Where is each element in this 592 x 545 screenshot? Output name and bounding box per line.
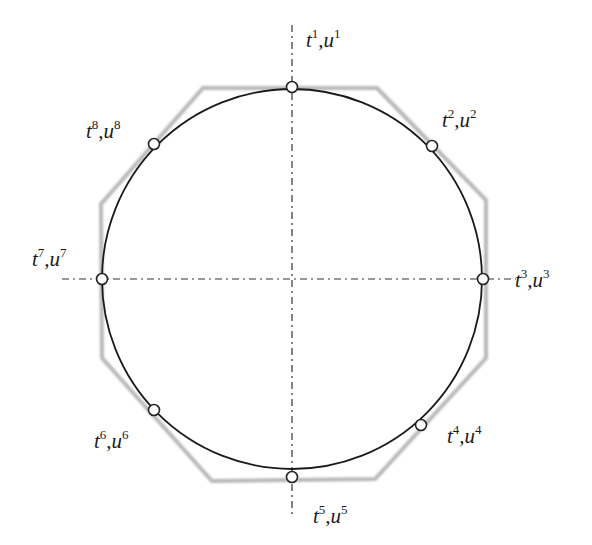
- point-label-8: t8,u8: [86, 117, 121, 143]
- point-label-3: t3,u3: [515, 266, 550, 292]
- point-label-4: t4,u4: [447, 422, 482, 448]
- sample-point-6: [149, 405, 160, 416]
- point-label-6: t6,u6: [94, 427, 129, 453]
- sample-point-5: [287, 472, 298, 483]
- point-labels: t1,u1t2,u2t3,u3t4,u4t5,u5t6,u6t7,u7t8,u8: [32, 26, 550, 528]
- point-label-5: t5,u5: [313, 502, 348, 528]
- circle-octagon-diagram: t1,u1t2,u2t3,u3t4,u4t5,u5t6,u6t7,u7t8,u8: [0, 0, 592, 545]
- sample-point-8: [149, 139, 160, 150]
- sample-point-2: [427, 141, 438, 152]
- sample-point-1: [287, 82, 298, 93]
- point-label-2: t2,u2: [442, 106, 477, 132]
- sample-point-3: [478, 274, 489, 285]
- sample-point-7: [97, 274, 108, 285]
- sample-point-4: [416, 420, 427, 431]
- point-label-7: t7,u7: [32, 245, 67, 271]
- point-label-1: t1,u1: [306, 26, 341, 52]
